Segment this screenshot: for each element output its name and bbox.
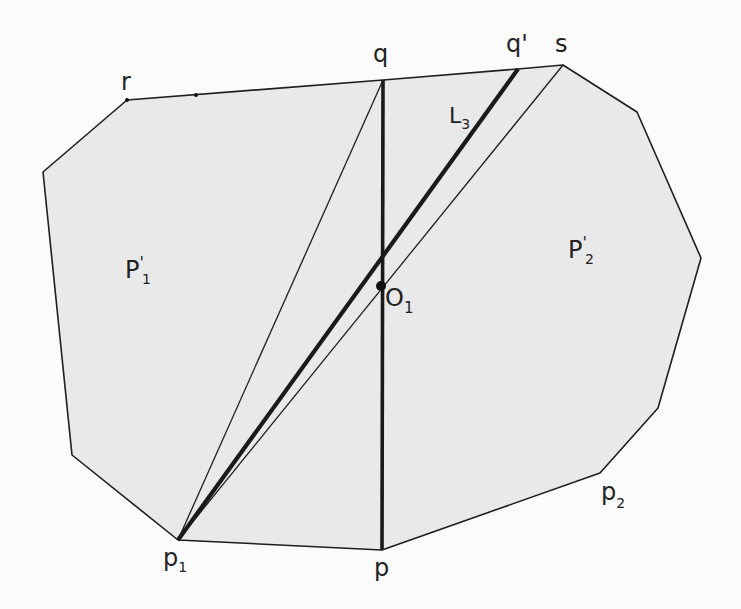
label-q: q [373, 40, 388, 68]
geometry-figure: q q' s r L3 O1 P'1 P'2 p p1 p2 [0, 0, 741, 609]
label-p1-sub: 1 [178, 559, 187, 575]
label-p2-sub: 2 [616, 495, 625, 511]
label-p2-main: p [601, 478, 616, 506]
label-p1: p1 [163, 544, 187, 575]
vertex-r-dot [125, 98, 129, 102]
label-O1-sub: 1 [404, 299, 414, 317]
label-P2-primemark: ' [582, 233, 586, 252]
label-s: s [555, 30, 568, 58]
label-O1-main: O [385, 284, 404, 312]
label-p: p [374, 554, 389, 582]
label-r: r [121, 68, 131, 96]
diagram-canvas: q q' s r L3 O1 P'1 P'2 p p1 p2 [0, 0, 741, 609]
label-L3-sub: 3 [461, 116, 470, 132]
label-q-prime: q' [506, 30, 528, 58]
label-P2-sub: 2 [585, 251, 594, 267]
label-p1-main: p [163, 544, 178, 572]
label-L3-main: L [449, 103, 462, 128]
label-P1-main: P [125, 256, 139, 284]
label-p2: p2 [601, 478, 625, 511]
label-P1-primemark: ' [139, 253, 143, 272]
edge-tick-dot [194, 93, 198, 97]
label-P1-sub: 1 [142, 271, 151, 287]
label-P2-main: P [568, 236, 582, 264]
segment-q-p [382, 80, 383, 550]
